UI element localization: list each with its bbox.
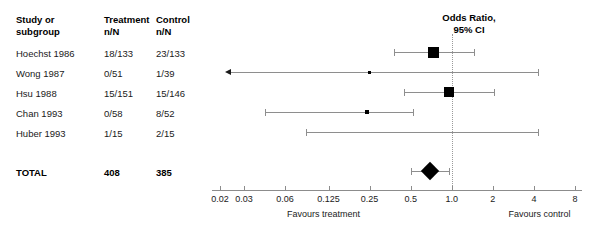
plot-title-line1: Odds Ratio,: [442, 12, 495, 23]
ci-cap-upper: [474, 49, 475, 56]
axis-tick: [452, 186, 453, 190]
confidence-interval-line: [231, 72, 538, 73]
ci-cap-lower: [306, 129, 307, 136]
ci-cap-upper: [538, 69, 539, 76]
axis-tick: [220, 186, 221, 190]
axis-tick: [534, 186, 535, 190]
axis-tick: [370, 186, 371, 190]
axis-tick-label: 0.06: [276, 194, 294, 204]
axis-tick: [244, 186, 245, 190]
axis-tick-label: 2: [490, 194, 495, 204]
axis-tick-label: 8: [573, 194, 578, 204]
axis-tick-label: 0.03: [235, 194, 253, 204]
axis-tick: [329, 186, 330, 190]
axis-tick-label: 0.25: [361, 194, 379, 204]
ci-left-arrow: [225, 69, 231, 75]
plot-title-line2: 95% CI: [453, 24, 484, 35]
ci-cap-upper: [449, 168, 450, 175]
study-effect-marker: [444, 87, 454, 97]
confidence-interval-line: [265, 112, 413, 113]
confidence-interval-line: [306, 132, 539, 133]
axis-tick-label: 0.5: [404, 194, 417, 204]
axis-tick: [575, 186, 576, 190]
pooled-effect-diamond: [421, 162, 439, 180]
axis-tick-label: 1.0: [446, 194, 459, 204]
favours-treatment-label: Favours treatment: [287, 209, 360, 219]
axis-tick-label: 0.125: [317, 194, 340, 204]
study-effect-marker: [365, 110, 369, 114]
axis-tick: [411, 186, 412, 190]
axis-tick-label: 4: [531, 194, 536, 204]
study-effect-marker: [368, 71, 371, 74]
favours-control-label: Favours control: [508, 209, 570, 219]
axis-line: [212, 190, 582, 191]
axis-tick-label: 0.02: [211, 194, 229, 204]
ci-cap-upper: [538, 129, 539, 136]
plot-title: Odds Ratio, 95% CI: [404, 12, 534, 35]
ci-cap-lower: [404, 89, 405, 96]
null-reference-line: [452, 34, 453, 186]
axis-tick: [493, 186, 494, 190]
axis-tick: [285, 186, 286, 190]
ci-cap-lower: [265, 109, 266, 116]
forest-plot-figure: Study or subgroup Treatment n/N Control …: [0, 0, 594, 230]
ci-cap-lower: [394, 49, 395, 56]
ci-cap-upper: [413, 109, 414, 116]
study-effect-marker: [428, 47, 439, 58]
ci-cap-upper: [494, 89, 495, 96]
ci-cap-lower: [411, 168, 412, 175]
forest-plot-canvas: Odds Ratio, 95% CI 0.020.030.060.1250.25…: [0, 0, 594, 230]
